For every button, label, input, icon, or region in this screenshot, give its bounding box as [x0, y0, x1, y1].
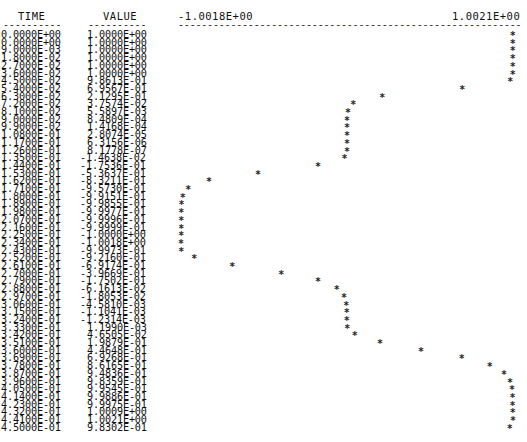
data-point: * [190, 255, 198, 263]
data-point: * [177, 248, 185, 256]
data-point: * [506, 425, 514, 433]
plot-header-rule: ----------------------------------------… [178, 19, 522, 30]
value-cell: 9.8302E-01 [87, 424, 147, 432]
data-point: * [378, 94, 386, 102]
data-point: * [506, 78, 514, 86]
data-point: * [376, 340, 384, 348]
data-point: * [341, 155, 349, 163]
data-point: * [254, 171, 262, 179]
data-point: * [351, 332, 359, 340]
data-point: * [205, 178, 213, 186]
data-point: * [314, 278, 322, 286]
data-point: * [228, 263, 236, 271]
data-point: * [458, 86, 466, 94]
data-point: * [486, 363, 494, 371]
data-point: * [417, 348, 425, 356]
data-point: * [314, 163, 322, 171]
time-cell: 4.5000E-01 [1, 424, 61, 432]
data-point: * [458, 355, 466, 363]
data-point: * [277, 271, 285, 279]
